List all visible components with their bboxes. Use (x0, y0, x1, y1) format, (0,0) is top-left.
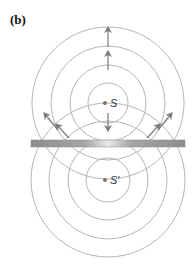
image-wavefront-2 (68, 140, 148, 220)
image-wavefront-3 (49, 121, 167, 239)
mirror-bar (31, 140, 185, 147)
image-source-dot (103, 178, 107, 182)
up-right-arrow-icon (158, 113, 172, 130)
source-label: S (110, 97, 118, 109)
reflection-diagram: S S′ (0, 0, 196, 271)
up-left-arrow-icon (44, 113, 58, 130)
image-source-label: S′ (110, 174, 120, 186)
image-wavefront-1 (86, 158, 130, 202)
source-dot (103, 101, 107, 105)
